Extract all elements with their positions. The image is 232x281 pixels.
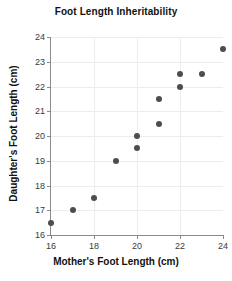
y-tick-label: 17 bbox=[35, 205, 45, 215]
data-point bbox=[48, 220, 54, 226]
x-tick-label: 18 bbox=[89, 241, 99, 251]
gridline-horizontal bbox=[51, 210, 223, 211]
x-tick-label: 24 bbox=[218, 241, 228, 251]
data-point bbox=[91, 195, 97, 201]
data-point bbox=[177, 84, 183, 90]
gridline-horizontal bbox=[51, 161, 223, 162]
y-tick-mark bbox=[47, 87, 51, 88]
y-tick-mark bbox=[47, 111, 51, 112]
y-tick-label: 18 bbox=[35, 181, 45, 191]
y-tick-mark bbox=[47, 136, 51, 137]
gridline-horizontal bbox=[51, 87, 223, 88]
data-point bbox=[199, 71, 205, 77]
y-tick-label: 23 bbox=[35, 57, 45, 67]
y-tick-mark bbox=[47, 62, 51, 63]
gridline-horizontal bbox=[51, 62, 223, 63]
scatter-chart: Foot Length Inheritability Daughter's Fo… bbox=[0, 0, 232, 281]
gridline-horizontal bbox=[51, 111, 223, 112]
data-point bbox=[220, 46, 226, 52]
data-point bbox=[70, 207, 76, 213]
data-point bbox=[113, 158, 119, 164]
y-axis-label: Daughter's Foot Length (cm) bbox=[8, 29, 19, 239]
x-tick-mark bbox=[94, 235, 95, 239]
y-tick-label: 22 bbox=[35, 82, 45, 92]
data-point bbox=[134, 145, 140, 151]
gridline-horizontal bbox=[51, 37, 223, 38]
plot-area: 161718192021222324 1618202224 bbox=[50, 37, 223, 236]
data-point bbox=[134, 133, 140, 139]
y-tick-mark bbox=[47, 37, 51, 38]
gridline-horizontal bbox=[51, 186, 223, 187]
y-tick-label: 16 bbox=[35, 230, 45, 240]
x-tick-mark bbox=[51, 235, 52, 239]
x-tick-label: 22 bbox=[175, 241, 185, 251]
x-tick-mark bbox=[137, 235, 138, 239]
y-tick-mark bbox=[47, 210, 51, 211]
data-point bbox=[156, 96, 162, 102]
data-point bbox=[177, 71, 183, 77]
y-tick-label: 24 bbox=[35, 32, 45, 42]
y-tick-label: 21 bbox=[35, 106, 45, 116]
chart-title: Foot Length Inheritability bbox=[0, 6, 232, 17]
x-tick-label: 16 bbox=[46, 241, 56, 251]
x-axis-label: Mother's Foot Length (cm) bbox=[0, 256, 232, 267]
data-point bbox=[156, 121, 162, 127]
x-tick-label: 20 bbox=[132, 241, 142, 251]
x-tick-mark bbox=[180, 235, 181, 239]
y-tick-mark bbox=[47, 161, 51, 162]
y-tick-mark bbox=[47, 186, 51, 187]
x-tick-mark bbox=[223, 235, 224, 239]
y-tick-label: 20 bbox=[35, 131, 45, 141]
y-tick-label: 19 bbox=[35, 156, 45, 166]
